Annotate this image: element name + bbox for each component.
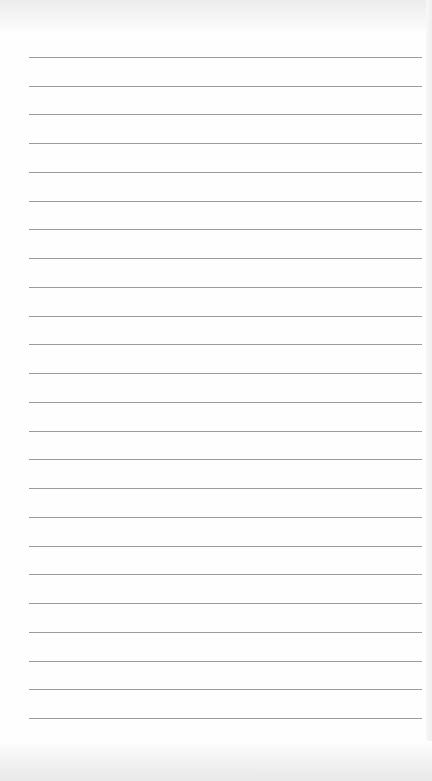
ruled-line [29,258,422,259]
ruled-line [29,661,422,662]
ruled-line [29,201,422,202]
ruled-line [29,718,422,719]
ruled-line [29,316,422,317]
ruled-line [29,689,422,690]
ruled-line [29,574,422,575]
ruled-line [29,603,422,604]
lined-paper [0,0,432,781]
ruled-line [29,86,422,87]
ruled-line [29,229,422,230]
ruled-line [29,143,422,144]
ruled-line [29,344,422,345]
ruled-line [29,488,422,489]
ruled-line [29,431,422,432]
ruled-line [29,172,422,173]
ruled-line [29,459,422,460]
ruled-line [29,517,422,518]
ruled-line [29,373,422,374]
ruled-line [29,546,422,547]
ruled-line [29,632,422,633]
ruled-line [29,114,422,115]
ruled-line [29,287,422,288]
ruled-line [29,402,422,403]
ruled-line [29,57,422,58]
